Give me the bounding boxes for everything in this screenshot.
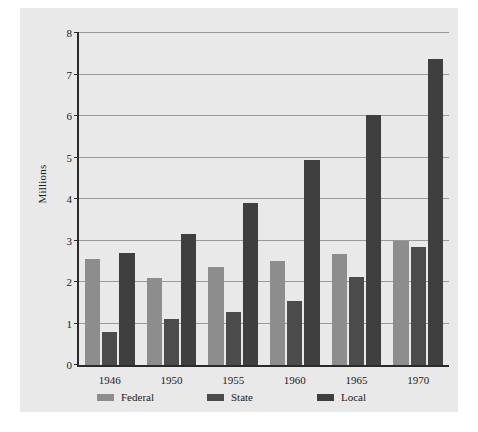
bar-local-1955 [243,203,258,365]
chart-figure: Millions 012345678 194619501955196019651… [20,8,458,412]
y-tick-label: 1 [67,318,73,330]
bar-group: 1970 [387,33,449,365]
bar-state-1960 [287,301,302,365]
bar-federal-1950 [147,278,162,365]
bar-group: 1960 [264,33,326,365]
bar-local-1946 [119,253,134,365]
x-tick-label: 1960 [264,374,326,386]
bar-state-1955 [226,312,241,365]
bar-local-1960 [304,160,319,365]
x-tick-label: 1946 [79,374,141,386]
legend-label: Local [341,391,366,403]
legend-swatch-state-icon [207,394,224,401]
legend-swatch-local-icon [317,394,334,401]
legend-swatch-federal-icon [97,394,114,401]
bar-local-1970 [428,59,443,365]
legend-item-local[interactable]: Local [317,391,366,403]
x-tick-label: 1965 [326,374,388,386]
bar-local-1965 [366,115,381,365]
y-tick-label: 6 [67,110,73,122]
bar-federal-1946 [85,259,100,365]
bar-federal-1960 [270,261,285,365]
bar-federal-1970 [393,241,408,365]
bar-state-1950 [164,319,179,365]
y-axis-title: Millions [36,144,48,224]
x-tick-label: 1970 [387,374,449,386]
chart-legend: FederalStateLocal [77,390,447,404]
y-tick-label: 8 [67,27,73,39]
bar-group: 1946 [79,33,141,365]
legend-label: State [231,391,253,403]
legend-item-federal[interactable]: Federal [97,391,154,403]
x-tick-label: 1950 [141,374,203,386]
bar-groups: 194619501955196019651970 [79,33,449,365]
bar-state-1965 [349,277,364,365]
bar-state-1946 [102,332,117,365]
plot-area: 012345678 194619501955196019651970 [77,33,449,367]
y-tick-label: 0 [67,359,73,371]
legend-item-state[interactable]: State [207,391,253,403]
bar-group: 1965 [326,33,388,365]
y-tick-label: 7 [67,69,73,81]
bar-federal-1955 [208,267,223,365]
bar-state-1970 [411,247,426,365]
y-tick-label: 2 [67,276,73,288]
bar-local-1950 [181,234,196,365]
y-tick-label: 5 [67,152,73,164]
bar-group: 1950 [141,33,203,365]
bar-group: 1955 [202,33,264,365]
legend-label: Federal [121,391,154,403]
bar-federal-1965 [332,254,347,365]
y-tick-label: 4 [67,193,73,205]
x-tick-label: 1955 [202,374,264,386]
y-tick-label: 3 [67,235,73,247]
